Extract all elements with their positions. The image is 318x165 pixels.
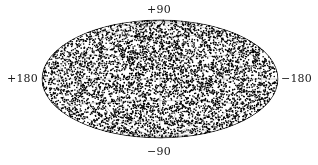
axis-label-left-meridian: +180 [7,73,38,84]
axis-label-north-pole: +90 [0,4,318,15]
sky-map-figure: +90 −90 +180 −180 [0,0,318,165]
axis-label-right-meridian: −180 [281,73,312,84]
axis-label-south-pole: −90 [0,146,318,157]
all-sky-scatter-plot [0,0,318,165]
